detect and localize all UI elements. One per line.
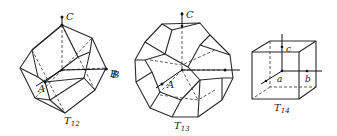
caption-t14: T14 [274, 102, 290, 115]
figure-t14: c b a T14 [252, 34, 322, 115]
label-a-t14: a [277, 74, 282, 84]
label-b-t14: b [305, 74, 311, 84]
caption-t12: T12 [64, 115, 80, 128]
label-a-t13: A [166, 79, 174, 90]
caption-t13: T13 [174, 120, 190, 133]
figure-t13: C B A T13 [111, 9, 240, 133]
label-c-t12: C [66, 11, 74, 22]
label-c-t14: c [286, 44, 291, 54]
figure-t12: C B A T12 [20, 11, 117, 128]
label-c-t13: C [186, 9, 194, 20]
label-a-t12: A [37, 83, 45, 94]
label-b-t13: B [111, 69, 119, 80]
brillouin-zones-figure: C B A T12 C B [0, 0, 337, 136]
